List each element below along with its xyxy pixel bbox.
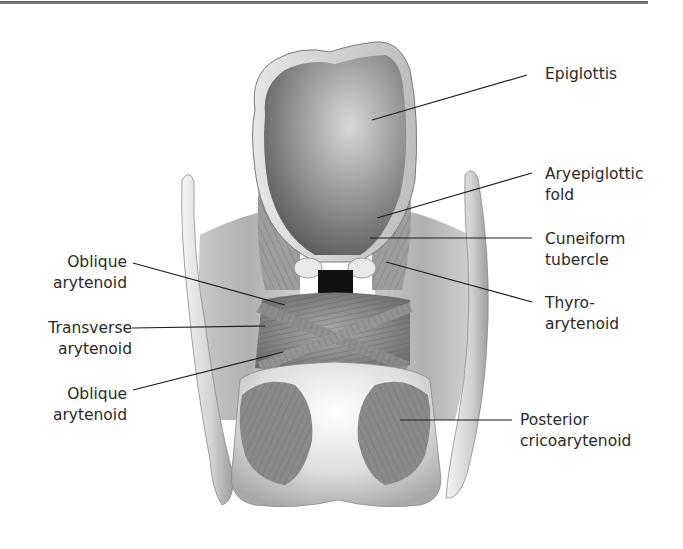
label-oblique-arytenoid-lower: Oblique arytenoid: [53, 384, 127, 426]
label-oblique-arytenoid-upper: Oblique arytenoid: [53, 252, 127, 294]
label-epiglottis: Epiglottis: [545, 64, 617, 85]
label-transverse-arytenoid: Transverse arytenoid: [48, 318, 132, 360]
label-cuneiform-tubercle: Cuneiform tubercle: [545, 229, 625, 271]
epiglottis-shape: [253, 42, 417, 262]
label-thyro-arytenoid: Thyro- arytenoid: [545, 293, 619, 335]
arytenoid-muscles: [255, 293, 412, 373]
label-posterior-cricoarytenoid: Posterior cricoarytenoid: [520, 410, 631, 452]
label-aryepiglottic-fold: Aryepiglottic fold: [545, 164, 643, 206]
